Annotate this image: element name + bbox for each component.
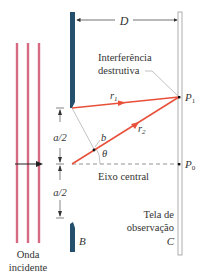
observation-screen [178,12,182,255]
barrier-bottom [70,222,75,252]
point-b-leader [95,140,100,147]
ray-r1-label: r1 [110,90,118,103]
double-slit-diagram: D Interferência destrutiva Eixo central … [0,0,206,275]
screen-letter-label: C [167,235,175,247]
screen-label-line1: Tela de [144,209,175,220]
interference-leader-line [145,71,178,96]
half-spacing-dimension [56,108,64,218]
angle-arc [96,148,100,164]
point-p0-marker [178,163,180,165]
central-axis-label: Eixo central [98,171,149,182]
ray-r2-label: r2 [138,123,146,136]
interference-label-line1: Interferência [98,52,152,63]
distance-label: D [119,14,129,28]
screen-label-line2: observação [127,222,174,233]
half-spacing-bottom-label: a/2 [53,187,67,198]
half-spacing-top-label: a/2 [53,132,67,143]
point-p0-label: P0 [184,158,196,172]
wave-label-line2: incidente [9,262,48,273]
point-b-label: b [101,132,106,143]
barrier-label: B [79,235,86,247]
point-b-marker [93,149,96,152]
wave-label-line1: Onda [17,249,40,260]
barrier-top [70,12,75,108]
interference-label-line2: destrutiva [98,65,140,76]
incident-wavefronts [17,43,39,243]
perpendicular-line [72,108,94,149]
point-p1-marker [178,96,180,98]
angle-label: θ [102,148,107,159]
point-p1-label: P1 [184,91,196,105]
